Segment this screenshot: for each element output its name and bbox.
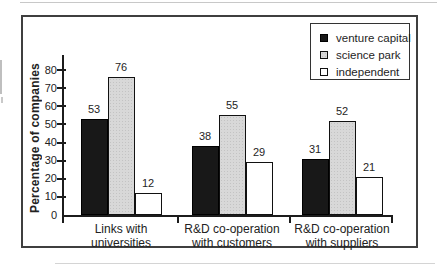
x-tick bbox=[177, 215, 179, 223]
y-tick-label: 40 bbox=[25, 136, 57, 149]
y-tick bbox=[57, 142, 66, 144]
bar-value-label: 12 bbox=[133, 177, 163, 190]
scanned-figure-page: Percentage of companies venture capitals… bbox=[0, 0, 437, 266]
legend-swatch-icon bbox=[320, 68, 328, 76]
x-tick bbox=[289, 215, 291, 223]
bar-independent-group-2 bbox=[356, 177, 383, 215]
y-tick-label: 30 bbox=[25, 154, 57, 167]
legend-item: science park bbox=[320, 47, 409, 63]
y-tick bbox=[57, 105, 66, 107]
y-tick bbox=[57, 196, 66, 198]
scan-artifact-bottom-line bbox=[55, 263, 435, 264]
legend-swatch-icon bbox=[320, 34, 328, 42]
bar-value-label: 29 bbox=[244, 146, 274, 159]
bar-value-label: 38 bbox=[190, 130, 220, 143]
bar-value-label: 76 bbox=[106, 61, 136, 74]
bar-value-label: 53 bbox=[79, 103, 109, 116]
y-tick bbox=[57, 160, 66, 162]
bar-science-park-group-2 bbox=[329, 121, 356, 215]
y-tick bbox=[57, 178, 66, 180]
bar-science-park-group-1 bbox=[219, 115, 246, 215]
category-label: R&D co-operationwith suppliers bbox=[277, 223, 407, 250]
bar-venture-capital-group-0 bbox=[81, 119, 108, 215]
bar-venture-capital-group-1 bbox=[192, 146, 219, 215]
y-tick-label: 0 bbox=[25, 209, 57, 222]
x-tick bbox=[391, 215, 393, 223]
x-axis-line bbox=[62, 215, 393, 217]
legend-item: independent bbox=[320, 64, 409, 80]
legend: venture capitalscience parkindependent bbox=[310, 23, 410, 80]
bar-independent-group-1 bbox=[246, 162, 273, 215]
y-tick-label: 80 bbox=[25, 64, 57, 77]
category-label-line: R&D co-operation bbox=[277, 223, 407, 237]
scan-artifact-left-smudge bbox=[0, 60, 2, 94]
category-label-line: with suppliers bbox=[277, 237, 407, 251]
bar-science-park-group-0 bbox=[108, 77, 135, 215]
y-tick-label: 10 bbox=[25, 190, 57, 203]
y-tick bbox=[57, 123, 66, 125]
bar-value-label: 55 bbox=[217, 99, 247, 112]
bar-value-label: 21 bbox=[354, 161, 384, 174]
scan-artifact-top-line bbox=[20, 2, 437, 3]
bar-independent-group-0 bbox=[135, 193, 162, 215]
bar-venture-capital-group-2 bbox=[302, 159, 329, 215]
y-tick-label: 70 bbox=[25, 82, 57, 95]
legend-label: science park bbox=[336, 49, 401, 61]
y-tick bbox=[57, 87, 66, 89]
legend-label: venture capital bbox=[336, 32, 411, 44]
y-tick bbox=[57, 69, 66, 71]
bar-value-label: 31 bbox=[300, 143, 330, 156]
y-tick-label: 20 bbox=[25, 172, 57, 185]
y-tick-label: 60 bbox=[25, 100, 57, 113]
legend-swatch-icon bbox=[320, 51, 328, 59]
scan-artifact-left-smudge bbox=[1, 97, 3, 103]
bar-value-label: 52 bbox=[327, 105, 357, 118]
y-tick-label: 50 bbox=[25, 118, 57, 131]
x-tick bbox=[62, 215, 64, 223]
legend-label: independent bbox=[336, 66, 399, 78]
chart-frame: Percentage of companies venture capitals… bbox=[21, 15, 418, 248]
legend-item: venture capital bbox=[320, 30, 409, 46]
